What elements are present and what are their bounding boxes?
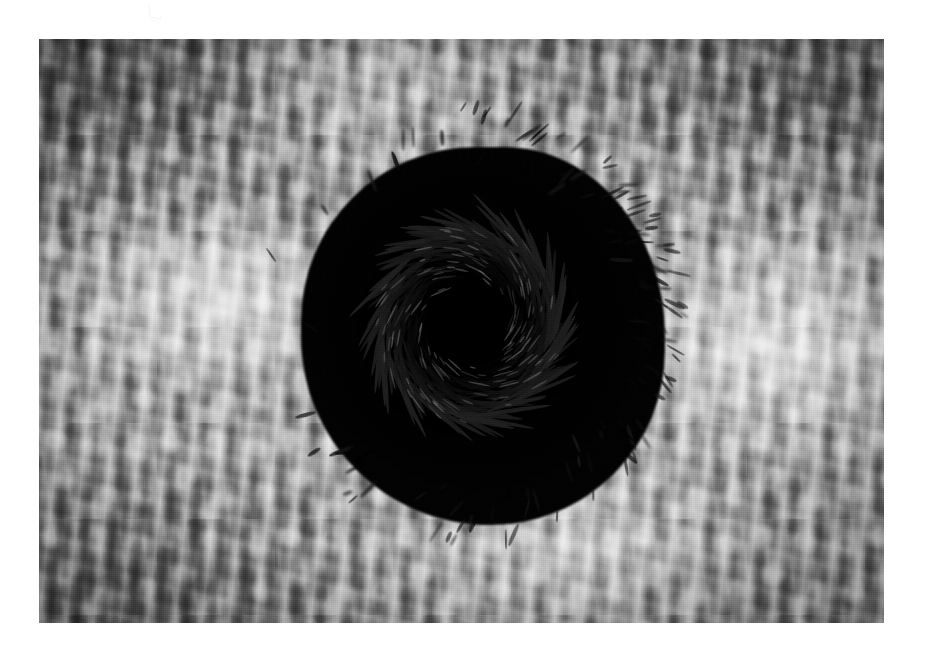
scan-artifact-mark — [146, 4, 168, 28]
page-canvas — [0, 0, 933, 660]
print-vignette — [39, 39, 884, 623]
photograph — [39, 39, 884, 623]
